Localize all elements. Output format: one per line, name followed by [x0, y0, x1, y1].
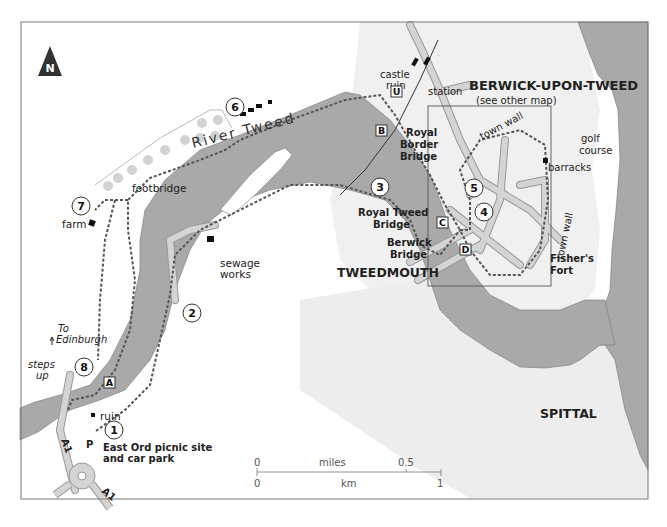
steps-up-label-2: up: [36, 370, 49, 381]
svg-text:8: 8: [80, 361, 88, 374]
svg-text:D: D: [462, 244, 470, 255]
svg-text:C: C: [439, 217, 446, 228]
parking-icon: P: [86, 439, 93, 450]
svg-text:U: U: [393, 86, 401, 97]
scale-km-one: 1: [437, 478, 443, 489]
royal-border-bridge-label-3: Bridge: [400, 151, 437, 162]
town-label-tweedmouth: TWEEDMOUTH: [337, 265, 439, 280]
barracks-label: barracks: [548, 162, 591, 173]
walk-route-map: N River Tweed BERWICK-UPON-TWEED (see ot…: [0, 0, 667, 527]
berwick-bridge-label-2: Bridge: [390, 249, 427, 260]
royal-tweed-bridge-label-2: Bridge: [373, 219, 410, 230]
scale-miles-half: 0.5: [398, 457, 414, 468]
royal-border-bridge-label: Royal: [406, 127, 437, 138]
marker-b: B: [376, 125, 387, 136]
waypoint-7: 7: [72, 197, 90, 215]
scale-miles-zero: 0: [254, 457, 260, 468]
svg-text:4: 4: [480, 206, 488, 219]
station-label: station: [428, 86, 462, 97]
svg-text:A: A: [106, 377, 114, 388]
svg-text:7: 7: [77, 200, 85, 213]
svg-text:1: 1: [110, 424, 118, 437]
town-label-spittal: SPITTAL: [540, 406, 597, 421]
fishers-fort-label-2: Fort: [550, 265, 573, 276]
berwick-note: (see other map): [476, 95, 557, 106]
to-edinburgh-label-2: Edinburgh: [56, 334, 107, 345]
royal-border-bridge-label-2: Border: [400, 139, 438, 150]
footbridge-label: footbridge: [132, 182, 186, 194]
east-ord-label: East Ord picnic site: [103, 442, 212, 453]
berwick-bridge-label: Berwick: [387, 237, 432, 248]
ruin-label: ruin: [100, 410, 121, 422]
waypoint-1: 1: [105, 421, 123, 439]
marker-d: D: [460, 244, 471, 255]
east-ord-label-2: and car park: [103, 453, 174, 464]
golf-course-label: golf: [581, 133, 600, 144]
marker-c: C: [437, 217, 448, 228]
scale-km-label: km: [341, 478, 357, 489]
waypoint-4: 4: [475, 203, 493, 221]
svg-text:5: 5: [470, 182, 478, 195]
svg-text:B: B: [378, 125, 385, 136]
svg-text:N: N: [45, 62, 54, 75]
golf-course-label-2: course: [579, 145, 612, 156]
waypoint-5: 5: [465, 179, 483, 197]
farm-label: farm: [62, 218, 87, 230]
waypoint-8: 8: [75, 358, 93, 376]
waypoint-6: 6: [226, 98, 244, 116]
steps-up-label: steps: [28, 359, 55, 370]
svg-text:2: 2: [188, 307, 196, 320]
waypoint-3: 3: [371, 178, 389, 196]
royal-tweed-bridge-label: Royal Tweed: [358, 207, 428, 218]
svg-text:3: 3: [376, 181, 384, 194]
to-edinburgh-label: To: [58, 323, 69, 334]
fishers-fort-label: Fisher's: [550, 253, 594, 264]
svg-text:6: 6: [231, 101, 239, 114]
town-label-berwick: BERWICK-UPON-TWEED: [469, 78, 638, 93]
marker-u: U: [391, 86, 402, 97]
marker-a: A: [104, 377, 115, 388]
waypoint-2: 2: [183, 304, 201, 322]
scale-km-zero: 0: [254, 478, 260, 489]
scale-miles-label: miles: [319, 457, 346, 468]
sewage-works-label-2: works: [220, 268, 251, 280]
castle-ruin-label: castle: [380, 69, 410, 80]
